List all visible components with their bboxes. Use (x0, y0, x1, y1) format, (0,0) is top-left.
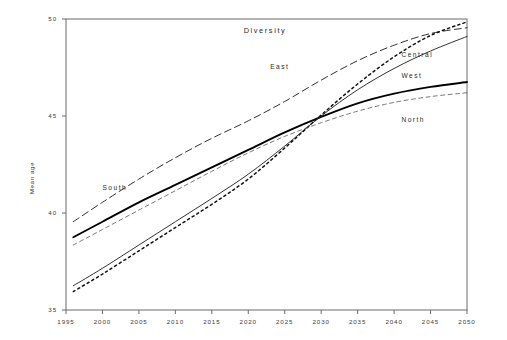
x-axis-tick-label: 2020 (240, 318, 257, 325)
x-axis-tick-label: 2025 (276, 318, 293, 325)
series-label-south: South (102, 184, 127, 191)
y-axis-tick-label: 45 (48, 112, 57, 119)
chart-title: Diversity (244, 26, 287, 35)
x-axis-tick-label: 2005 (130, 318, 147, 325)
x-axis-tick-label: 2045 (422, 318, 439, 325)
diversity-chart: 3540455019952000200520102015202020252030… (0, 0, 507, 340)
chart-canvas: 3540455019952000200520102015202020252030… (0, 0, 507, 340)
x-axis-tick-label: 2040 (385, 318, 402, 325)
x-axis-tick-label: 2050 (458, 318, 475, 325)
series-label-north: North (401, 116, 425, 123)
y-axis-tick-label: 50 (48, 15, 57, 22)
plot-frame (66, 19, 467, 310)
series-label-west: West (401, 72, 422, 79)
y-axis-tick-label: 40 (48, 209, 57, 216)
y-axis-title: Mean age (28, 162, 35, 194)
x-axis-tick-label: 2010 (167, 318, 184, 325)
x-axis-tick-label: 2035 (349, 318, 366, 325)
x-axis-tick-label: 2030 (312, 318, 329, 325)
x-axis-tick-label: 2015 (203, 318, 220, 325)
x-axis-tick-label: 2000 (94, 318, 111, 325)
series-label-east: East (270, 63, 289, 70)
series-line-east (73, 22, 467, 292)
y-axis-tick-label: 35 (48, 306, 57, 313)
x-axis-tick-label: 1995 (57, 318, 74, 325)
series-label-central: Central (401, 51, 433, 58)
